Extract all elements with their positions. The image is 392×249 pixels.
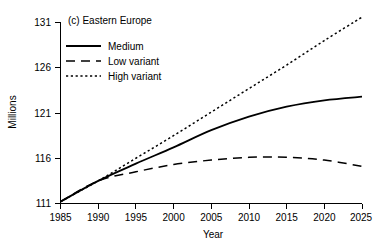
y-tick-label-0: 111 <box>36 198 52 209</box>
panel-title: (c) Eastern Europe <box>68 15 152 26</box>
x-tick-label-7: 2020 <box>313 212 336 223</box>
x-axis-title: Year <box>203 229 224 240</box>
y-tick-label-3: 126 <box>34 62 51 73</box>
x-tick-label-5: 2010 <box>238 212 261 223</box>
x-tick-label-8: 2025 <box>350 212 373 223</box>
x-tick-label-1: 1990 <box>87 212 110 223</box>
x-tick-label-0: 1985 <box>49 212 72 223</box>
line-chart-svg: 111 116 121 126 131 1985 1990 1995 2000 … <box>0 0 392 249</box>
x-tick-label-6: 2015 <box>276 212 299 223</box>
chart-figure: 111 116 121 126 131 1985 1990 1995 2000 … <box>0 0 392 249</box>
y-tick-label-4: 131 <box>34 17 51 28</box>
x-tick-label-2: 1995 <box>125 212 148 223</box>
y-tick-label-2: 121 <box>34 108 51 119</box>
y-axis-title: Millions <box>7 95 18 128</box>
x-tick-label-3: 2000 <box>162 212 185 223</box>
legend-label-high-variant: High variant <box>108 71 162 82</box>
legend-label-low-variant: Low variant <box>108 56 159 67</box>
x-axis-tick-labels: 1985 1990 1995 2000 2005 2010 2015 2020 … <box>49 212 372 223</box>
x-tick-label-4: 2005 <box>200 212 223 223</box>
legend-label-medium: Medium <box>108 41 144 52</box>
y-tick-label-1: 116 <box>35 153 51 164</box>
